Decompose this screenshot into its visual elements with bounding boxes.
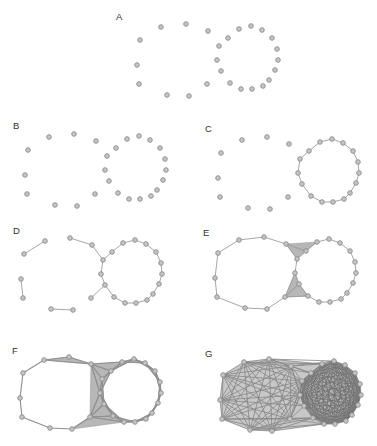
graph-node: [239, 87, 244, 92]
graph-node: [159, 391, 164, 396]
graph-edge: [92, 245, 103, 260]
graph-node: [160, 272, 165, 277]
graph-node: [88, 415, 93, 420]
graph-node: [93, 192, 98, 197]
graph-node: [350, 413, 355, 418]
graph-node: [133, 420, 138, 425]
graph-node: [67, 355, 72, 360]
graph-node: [331, 200, 336, 205]
graph-node: [68, 236, 73, 241]
graph-edge: [218, 240, 239, 253]
graph-node: [219, 69, 224, 74]
graph-node: [205, 82, 210, 87]
graph-node: [89, 362, 94, 367]
graph-node: [111, 414, 116, 419]
graph-node: [138, 38, 143, 43]
graph-node: [357, 171, 362, 176]
graph-node: [339, 297, 344, 302]
graph-node: [99, 272, 104, 277]
graph-node: [109, 369, 114, 374]
graph-node: [100, 377, 105, 382]
graph-node: [226, 36, 231, 41]
graph-node: [150, 411, 155, 416]
graph-edge: [267, 297, 285, 309]
graph-node: [345, 291, 350, 296]
graph-node: [356, 403, 361, 408]
graph-node: [268, 207, 273, 212]
graph-node: [284, 242, 289, 247]
panel-d-graph: [19, 236, 165, 313]
graph-node: [18, 396, 23, 401]
graph-node: [120, 360, 125, 365]
figure-canvas: A B C D E F G: [0, 0, 377, 446]
graph-node: [22, 252, 27, 257]
graph-node: [122, 420, 127, 425]
graph-node: [137, 82, 142, 87]
graph-node: [21, 371, 26, 376]
graph-node: [53, 203, 58, 208]
graph-edge: [215, 278, 217, 297]
graph-node: [26, 148, 31, 153]
panel-b-graph: [23, 132, 169, 209]
graph-node: [72, 132, 77, 137]
graph-node: [300, 379, 305, 384]
graph-node: [307, 149, 312, 154]
graph-node: [354, 271, 359, 276]
graph-node: [89, 296, 94, 301]
graph-node: [116, 191, 121, 196]
graph-node: [295, 257, 300, 262]
graph-node: [19, 277, 24, 282]
graph-node: [218, 398, 223, 403]
graph-node: [289, 364, 294, 369]
graph-node: [71, 308, 76, 313]
graph-node: [105, 154, 110, 159]
graph-node: [127, 197, 132, 202]
graph-node: [107, 179, 112, 184]
graph-node: [112, 295, 117, 300]
graph-node: [103, 283, 108, 288]
graph-node: [260, 28, 265, 33]
graph-node: [354, 181, 359, 186]
graph-node: [246, 206, 251, 211]
graph-node: [165, 93, 170, 98]
graph-node: [218, 195, 223, 200]
graph-node: [217, 44, 222, 49]
graph-node: [341, 141, 346, 146]
graph-node: [265, 307, 270, 312]
graph-node: [158, 146, 163, 151]
graph-node: [158, 380, 163, 385]
graph-node: [309, 194, 314, 199]
graph-node: [322, 422, 327, 427]
graph-node: [250, 87, 255, 92]
graph-node: [75, 204, 80, 209]
graph-node: [300, 182, 305, 187]
graph-node: [42, 358, 47, 363]
graph-node: [297, 282, 302, 287]
graph-node: [25, 192, 30, 197]
graph-node: [240, 138, 245, 143]
graph-node: [302, 404, 307, 409]
graph-node: [270, 429, 275, 434]
graph-node: [332, 359, 337, 364]
panel-b-label: B: [13, 121, 20, 131]
graph-edge: [239, 237, 264, 240]
graph-node: [221, 373, 226, 378]
panel-e-label: E: [203, 228, 210, 238]
graph-node: [344, 419, 349, 424]
graph-node: [102, 402, 107, 407]
graph-node: [149, 194, 154, 199]
graph-node: [48, 426, 53, 431]
panel-c-label: C: [205, 124, 212, 134]
graph-node: [228, 81, 233, 86]
graph-node: [157, 282, 162, 287]
graph-node: [306, 294, 311, 299]
graph-node: [215, 58, 220, 63]
graph-node: [249, 24, 254, 29]
graph-edge: [20, 373, 23, 398]
graph-edge: [23, 360, 44, 373]
graph-node: [123, 301, 128, 306]
graph-node: [348, 191, 353, 196]
graph-node: [155, 188, 160, 193]
graph-edge: [24, 241, 45, 254]
graph-node: [283, 295, 288, 300]
